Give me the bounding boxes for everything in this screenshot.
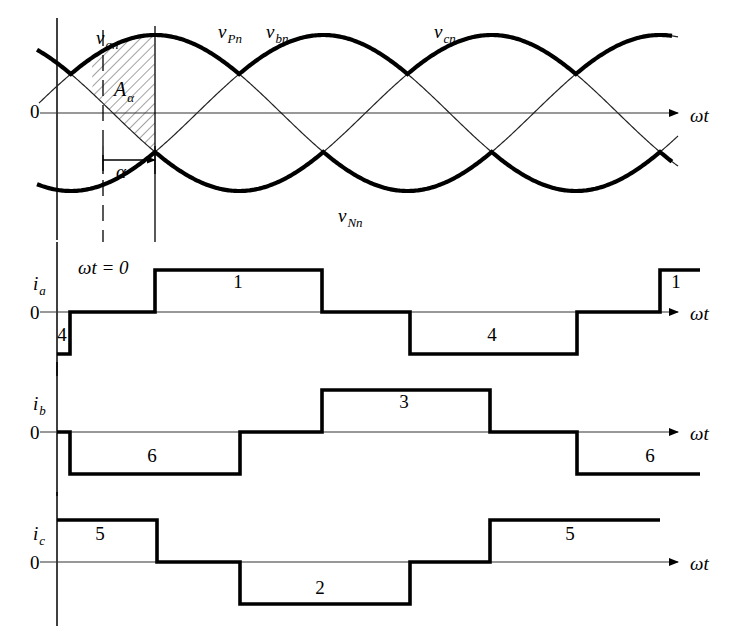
rectifier-waveform-figure: 0 ωt van vPn vbn vcn vNn Aα α ia0ωtωt = …: [0, 0, 746, 638]
vbn-label: vbn: [266, 21, 288, 46]
device-number-label: 4: [487, 324, 497, 345]
current-label: ib: [33, 393, 46, 418]
device-number-label: 6: [645, 445, 655, 466]
current-panels-group: ia0ωtωt = 04141ib0ωt636ic0ωt525: [30, 242, 709, 626]
device-number-label: 4: [57, 324, 67, 345]
current-panel-ic: ic0ωt525: [30, 492, 709, 626]
device-number-label: 2: [315, 577, 325, 598]
van-label: van: [96, 27, 118, 52]
current-panel-ib: ib0ωt636: [30, 362, 709, 496]
device-number-label: 1: [671, 271, 681, 292]
time-origin-label: ωt = 0: [78, 257, 129, 278]
zero-label: 0: [30, 552, 40, 573]
omega-t-label: ωt: [690, 423, 709, 444]
zero-label: 0: [30, 302, 40, 323]
current-label: ia: [33, 273, 46, 298]
voltage-panel: 0 ωt van vPn vbn vcn vNn Aα α: [30, 18, 709, 242]
device-number-label: 5: [565, 523, 575, 544]
device-number-label: 3: [399, 391, 409, 412]
voltage-zero-label: 0: [30, 101, 40, 122]
alpha-label: α: [116, 161, 127, 182]
device-number-label: 1: [233, 271, 243, 292]
current-panel-ia: ia0ωtωt = 04141: [30, 242, 709, 376]
vnn-label: vNn: [338, 205, 363, 230]
omega-t-label: ωt: [690, 303, 709, 324]
device-number-label: 6: [147, 445, 157, 466]
vnn-envelope-curve: [37, 152, 672, 191]
device-number-label: 5: [95, 523, 105, 544]
voltage-omega-t-label: ωt: [690, 105, 709, 126]
vpn-label: vPn: [218, 21, 242, 46]
current-label: ic: [33, 523, 45, 548]
vcn-label: vcn: [434, 21, 456, 46]
omega-t-label: ωt: [690, 553, 709, 574]
current-waveform: [57, 270, 700, 354]
zero-label: 0: [30, 422, 40, 443]
